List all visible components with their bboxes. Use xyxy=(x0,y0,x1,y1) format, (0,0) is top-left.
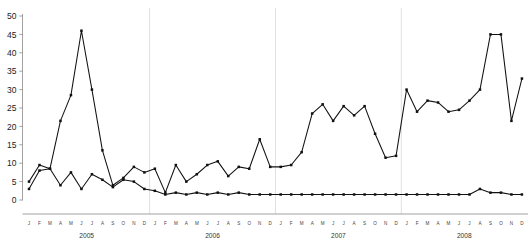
x-tick-label-2008-J: J xyxy=(405,221,407,226)
data-point-series-lower-2008-A xyxy=(437,193,440,196)
x-tick-label-2008-J: J xyxy=(468,221,470,226)
data-point-series-lower-2007-J xyxy=(342,193,345,196)
chart-background xyxy=(0,0,531,248)
data-point-series-upper-2008-M xyxy=(447,110,450,113)
data-point-series-lower-2007-M xyxy=(321,193,324,196)
data-point-series-lower-2007-A xyxy=(311,193,314,196)
data-point-series-upper-2005-D xyxy=(143,171,146,174)
x-tick-label-2007-F: F xyxy=(290,221,293,226)
data-point-series-upper-2006-A xyxy=(227,175,230,178)
data-point-series-lower-2005-N xyxy=(133,180,136,183)
data-point-series-upper-2005-N xyxy=(133,166,136,169)
data-point-series-upper-2006-O xyxy=(248,167,251,170)
data-point-series-upper-2006-M xyxy=(196,173,199,176)
data-point-series-lower-2005-J xyxy=(28,188,31,191)
data-point-series-upper-2007-J xyxy=(342,105,345,108)
data-point-series-lower-2006-O xyxy=(248,193,251,196)
year-label-2007: 2007 xyxy=(331,232,346,239)
x-tick-label-2007-S: S xyxy=(363,221,366,226)
data-point-series-upper-2006-J xyxy=(154,167,157,170)
y-tick-label-0: 0 xyxy=(12,195,17,205)
data-point-series-lower-2006-F xyxy=(164,193,167,196)
data-point-series-upper-2005-A xyxy=(101,149,104,152)
x-tick-label-2006-J: J xyxy=(206,221,208,226)
x-tick-label-2005-J: J xyxy=(28,221,30,226)
data-point-series-upper-2006-D xyxy=(269,166,272,169)
data-point-series-lower-2007-M xyxy=(300,193,303,196)
data-point-series-upper-2008-A xyxy=(437,101,440,104)
year-label-2005: 2005 xyxy=(79,232,94,239)
x-tick-label-2007-J: J xyxy=(342,221,344,226)
data-point-series-upper-2008-O xyxy=(500,33,503,36)
data-point-series-lower-2008-M xyxy=(447,193,450,196)
data-point-series-upper-2007-J xyxy=(279,166,282,169)
data-point-series-upper-2008-F xyxy=(416,110,419,113)
data-point-series-lower-2005-S xyxy=(112,186,115,189)
data-point-series-upper-2007-A xyxy=(353,114,356,117)
y-tick-label-40: 40 xyxy=(7,48,17,58)
data-point-series-upper-2007-O xyxy=(374,133,377,136)
x-tick-label-2005-S: S xyxy=(111,221,114,226)
data-point-series-lower-2008-N xyxy=(510,193,513,196)
data-point-series-lower-2006-J xyxy=(217,191,220,194)
data-point-series-upper-2007-S xyxy=(363,105,366,108)
x-tick-label-2005-M: M xyxy=(69,221,73,226)
data-point-series-upper-2005-J xyxy=(80,29,83,32)
y-tick-label-15: 15 xyxy=(7,140,17,150)
data-point-series-lower-2005-J xyxy=(91,173,94,176)
data-point-series-lower-2007-D xyxy=(395,193,398,196)
data-point-series-lower-2007-N xyxy=(384,193,387,196)
y-tick-label-25: 25 xyxy=(7,103,17,113)
x-tick-label-2007-O: O xyxy=(373,221,377,226)
y-tick-label-5: 5 xyxy=(12,177,17,187)
y-tick-label-35: 35 xyxy=(7,66,17,76)
x-tick-label-2005-N: N xyxy=(132,221,135,226)
data-point-series-upper-2005-A xyxy=(59,120,62,123)
data-point-series-lower-2005-M xyxy=(70,171,73,174)
data-point-series-lower-2008-S xyxy=(489,191,492,194)
data-point-series-lower-2006-A xyxy=(185,193,188,196)
data-point-series-lower-2008-J xyxy=(468,193,471,196)
data-point-series-upper-2007-N xyxy=(384,156,387,159)
data-point-series-upper-2008-J xyxy=(405,88,408,91)
data-point-series-lower-2006-J xyxy=(206,193,209,196)
data-point-series-upper-2007-A xyxy=(311,112,314,115)
data-point-series-lower-2005-F xyxy=(38,169,41,172)
x-tick-label-2007-J: J xyxy=(332,221,334,226)
data-point-series-upper-2006-S xyxy=(238,166,241,169)
x-tick-label-2006-S: S xyxy=(237,221,240,226)
data-point-series-upper-2007-M xyxy=(321,103,324,106)
data-point-series-upper-2008-J xyxy=(458,109,461,112)
x-tick-label-2008-S: S xyxy=(489,221,492,226)
data-point-series-lower-2007-J xyxy=(279,193,282,196)
data-point-series-lower-2007-F xyxy=(290,193,293,196)
data-point-series-lower-2007-S xyxy=(363,193,366,196)
x-tick-label-2008-O: O xyxy=(499,221,503,226)
data-point-series-lower-2006-N xyxy=(258,193,261,196)
data-point-series-upper-2005-J xyxy=(28,180,31,183)
x-tick-label-2008-M: M xyxy=(447,221,451,226)
y-tick-label-45: 45 xyxy=(7,30,17,40)
data-point-series-lower-2006-M xyxy=(175,191,178,194)
x-tick-label-2008-J: J xyxy=(458,221,460,226)
data-point-series-lower-2008-J xyxy=(458,193,461,196)
data-point-series-lower-2008-F xyxy=(416,193,419,196)
y-tick-label-20: 20 xyxy=(7,122,17,132)
year-label-2006: 2006 xyxy=(205,232,220,239)
x-tick-label-2006-F: F xyxy=(164,221,167,226)
chart-canvas: 05101520253035404550 JFMAMJJASONDJFMAMJJ… xyxy=(0,0,531,248)
x-tick-label-2005-J: J xyxy=(91,221,93,226)
data-point-series-lower-2006-D xyxy=(269,193,272,196)
y-tick-label-10: 10 xyxy=(7,158,17,168)
data-point-series-lower-2007-J xyxy=(332,193,335,196)
data-point-series-lower-2006-S xyxy=(238,191,241,194)
data-point-series-lower-2005-A xyxy=(59,184,62,187)
data-point-series-lower-2008-M xyxy=(426,193,429,196)
y-tick-label-50: 50 xyxy=(7,11,17,21)
x-tick-label-2006-O: O xyxy=(247,221,251,226)
x-tick-label-2005-M: M xyxy=(48,221,52,226)
data-point-series-upper-2007-F xyxy=(290,164,293,167)
data-point-series-upper-2008-A xyxy=(479,88,482,91)
data-point-series-lower-2005-O xyxy=(122,179,125,182)
data-point-series-upper-2008-N xyxy=(510,120,513,123)
